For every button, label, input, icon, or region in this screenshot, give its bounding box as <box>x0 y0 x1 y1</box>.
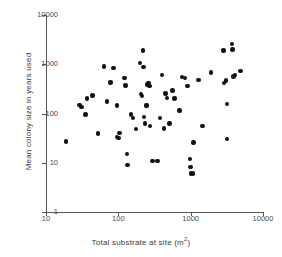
data-point <box>191 171 195 175</box>
data-point <box>160 73 164 77</box>
data-point <box>117 131 121 135</box>
data-point <box>156 159 160 163</box>
data-point <box>142 115 146 119</box>
data-point <box>145 103 149 107</box>
data-point <box>108 80 112 84</box>
data-point <box>163 91 167 95</box>
data-point <box>167 121 171 125</box>
data-point <box>123 83 127 87</box>
data-point <box>134 127 138 131</box>
data-point <box>177 108 181 112</box>
data-point <box>209 70 213 74</box>
data-point <box>230 47 234 51</box>
data-point <box>196 78 200 82</box>
data-point <box>102 64 106 68</box>
data-point <box>125 163 129 167</box>
x-axis-title: Total substrate at site (m2) <box>0 236 282 247</box>
data-point <box>158 116 162 120</box>
data-point <box>233 73 237 77</box>
data-point <box>79 105 83 109</box>
data-point <box>116 136 120 140</box>
data-point <box>141 48 145 52</box>
data-point <box>230 42 234 46</box>
data-point <box>225 137 229 141</box>
data-point <box>188 157 192 161</box>
y-axis-title: Mean colony size in years used <box>24 22 33 202</box>
data-point <box>165 96 169 100</box>
data-point <box>185 84 189 88</box>
data-point <box>64 139 68 143</box>
data-point <box>147 84 151 88</box>
data-points-layer <box>0 0 282 257</box>
data-point <box>131 116 135 120</box>
data-point <box>140 94 144 98</box>
data-point <box>143 121 147 125</box>
data-point <box>200 124 204 128</box>
data-point <box>83 112 87 116</box>
data-point <box>96 131 100 135</box>
data-point <box>111 66 115 70</box>
data-point <box>90 93 94 97</box>
data-point <box>238 69 242 73</box>
data-point <box>188 165 192 169</box>
data-point <box>141 65 145 69</box>
scatter-plot-figure: 11010010001000010100100010000 Mean colon… <box>0 0 282 257</box>
data-point <box>105 99 109 103</box>
data-point <box>170 88 174 92</box>
data-point <box>224 78 228 82</box>
data-point <box>225 102 229 106</box>
data-point <box>162 126 166 130</box>
data-point <box>115 103 119 107</box>
x-axis-title-tail: ) <box>188 238 191 247</box>
x-axis-title-base: Total substrate at site (m <box>92 238 184 247</box>
data-point <box>85 96 89 100</box>
data-point <box>221 48 225 52</box>
data-point <box>191 140 195 144</box>
data-point <box>183 76 187 80</box>
data-point <box>148 124 152 128</box>
data-point <box>125 152 129 156</box>
data-point <box>172 96 176 100</box>
data-point <box>122 76 126 80</box>
